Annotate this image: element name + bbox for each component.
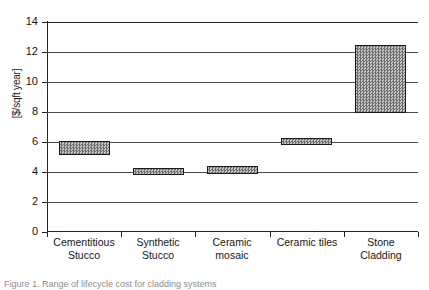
y-tick-label-0: 0 [32, 225, 38, 237]
gridline-2 [47, 202, 418, 203]
x-category-label-line: mosaic [195, 249, 269, 262]
x-category-label-line: Cladding [344, 249, 418, 262]
range-bar [207, 166, 258, 174]
x-category-label: StoneCladding [344, 236, 418, 262]
x-axis-category-labels: CementitiousStuccoSyntheticStuccoCeramic… [47, 236, 418, 276]
range-bar [133, 168, 184, 175]
y-tick-label-4: 4 [32, 165, 38, 177]
figure-caption: Figure 1. Range of lifecycle cost for cl… [4, 279, 428, 290]
x-category-label-line: Synthetic [121, 236, 195, 249]
x-category-label-line: Stucco [47, 249, 121, 262]
y-tick-14: 14 [42, 22, 47, 23]
y-axis-title: [$/sqft year] [11, 34, 22, 154]
plot-area: 02468101214 [47, 22, 418, 232]
x-category-label-line: Stone [344, 236, 418, 249]
x-category-label-line: Stucco [121, 249, 195, 262]
gridline-14 [47, 22, 418, 23]
x-axis-line [47, 231, 418, 232]
y-tick-label-10: 10 [26, 75, 38, 87]
y-tick-10: 10 [42, 82, 47, 83]
x-category-label-line: Ceramic [195, 236, 269, 249]
x-tick-5 [418, 232, 419, 237]
range-bar [59, 141, 110, 155]
y-tick-label-8: 8 [32, 105, 38, 117]
range-bar [355, 45, 406, 113]
y-tick-12: 12 [42, 52, 47, 53]
range-bar [281, 138, 332, 145]
x-category-label-line: Ceramic tiles [270, 236, 344, 249]
y-tick-4: 4 [42, 172, 47, 173]
y-tick-label-14: 14 [26, 15, 38, 27]
y-tick-label-2: 2 [32, 195, 38, 207]
x-category-label-line: Cementitious [47, 236, 121, 249]
y-tick-label-12: 12 [26, 45, 38, 57]
x-category-label: Ceramicmosaic [195, 236, 269, 262]
x-category-label: SyntheticStucco [121, 236, 195, 262]
x-category-label: CementitiousStucco [47, 236, 121, 262]
y-tick-6: 6 [42, 142, 47, 143]
y-tick-2: 2 [42, 202, 47, 203]
x-category-label: Ceramic tiles [270, 236, 344, 249]
y-tick-8: 8 [42, 112, 47, 113]
y-tick-label-6: 6 [32, 135, 38, 147]
